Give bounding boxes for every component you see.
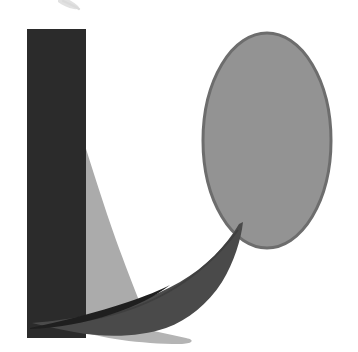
artwork-vector: [0, 0, 358, 352]
vertical-bar-shape: [27, 29, 86, 338]
ellipse-sun-shape: [203, 33, 331, 248]
artwork-canvas: Abstract Sailboat Composition: [0, 0, 358, 352]
